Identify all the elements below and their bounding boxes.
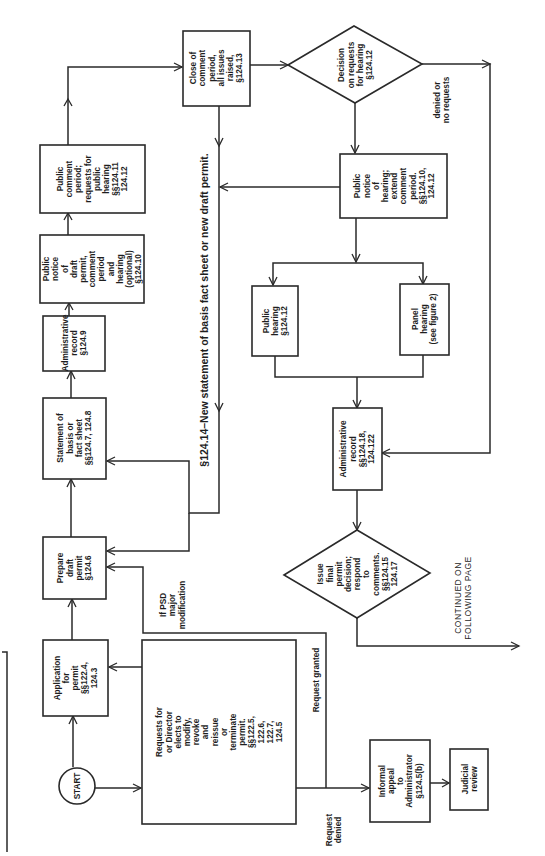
text-line: for hearing (356, 44, 365, 87)
text-line: 124.5 (275, 721, 284, 742)
text-line: §124.5(b) (415, 763, 424, 799)
text-line: 122.7, (266, 721, 275, 744)
node-close-comment[interactable]: Close ofcommentperiod,all issuesraised,§… (183, 31, 250, 106)
text-line: no requests (442, 76, 451, 123)
node-panel-hearing[interactable]: Panelhearing(see figure 2) (400, 284, 449, 355)
text-line: Application (53, 656, 62, 701)
text-line: to (362, 570, 371, 578)
node-admin-record-1[interactable]: Administrativerecord§124.9 (43, 314, 105, 371)
text-line: fact sheet (75, 419, 84, 457)
node-application[interactable]: Applicationforpermit§§122.4,124.3 (43, 640, 108, 716)
text-line: and (107, 262, 116, 277)
text-line: raised, (226, 55, 235, 81)
text-line: modification (178, 581, 187, 630)
text-line: respond (353, 558, 362, 590)
node-requests[interactable]: Requests foror Directorelects tomodify,r… (142, 640, 296, 824)
text-line: CONTINUED ON (453, 562, 463, 634)
text-line: elects to (174, 715, 183, 748)
text-line: §124.9 (79, 330, 88, 355)
text-line: hearing; (381, 170, 390, 202)
text-line: and (201, 725, 210, 740)
label-new-statement: §124.14–New statement of basis fact shee… (198, 153, 210, 466)
text-line: major (168, 593, 177, 616)
text-line: Issue (316, 563, 325, 584)
text-line: decision; (344, 556, 353, 592)
text-line: of (61, 265, 70, 273)
edge-comment-close (68, 67, 182, 145)
label-denied-no-requests: denied orno requests (433, 76, 452, 123)
node-public-hearing[interactable]: Publichearing§124.12 (252, 286, 298, 356)
text-line: to (396, 777, 405, 785)
label-psd-modification: If PSDmajormodification (159, 581, 187, 630)
text-line: Public (353, 173, 362, 198)
text-line: for (62, 672, 71, 684)
text-line: §§124.18, (358, 431, 367, 467)
text-line: Panel (411, 308, 420, 330)
text-line: period; (74, 165, 83, 193)
node-judicial-review[interactable]: Judicialreview (450, 749, 488, 810)
text-line: denied or (433, 81, 442, 119)
text-line: notice (51, 257, 60, 282)
text-line: (optional) (125, 250, 134, 288)
text-line: Request (325, 814, 334, 847)
text-line: denied (334, 817, 343, 843)
text-line: all issues (217, 49, 226, 86)
text-line: permit, (79, 255, 88, 282)
text-line: §§124.10, (418, 168, 427, 204)
node-public-notice-hearing[interactable]: Publicnoticeofhearing;extendcommentperio… (340, 154, 447, 218)
text-line: record (349, 436, 358, 461)
node-statement-basis[interactable]: Statement ofbasis orfact sheet§§124.7, 1… (43, 398, 106, 479)
text-line: §§122.4, (80, 662, 89, 694)
text-line: appeal (387, 768, 396, 794)
text-line: §§124.11 (111, 162, 120, 196)
text-line: draft (66, 559, 75, 577)
node-text: Close ofcommentperiod,all issuesraised,§… (189, 49, 244, 86)
text-line: final (326, 566, 335, 583)
text-line: 124.12 (120, 166, 129, 191)
permit-process-flowchart: START Applicationforpermit§§122.4,124.3 … (0, 0, 545, 856)
text-line: requests for (84, 155, 93, 203)
text-line: Public (56, 166, 65, 191)
text-line: Public (42, 256, 51, 281)
node-start[interactable]: START (59, 768, 95, 804)
text-line: revoke (192, 718, 201, 745)
text-line: §124.10 (134, 254, 143, 284)
text-line: period, (208, 54, 217, 81)
page-margin-bracket (2, 652, 7, 852)
text-line: Public (262, 308, 271, 333)
text-line: Statement of (56, 413, 65, 463)
label-request-granted: Request granted (312, 648, 321, 713)
text-line: permit (71, 665, 80, 690)
text-line: period. (409, 172, 418, 199)
node-public-comment[interactable]: Publiccommentperiod;requests forpubliche… (40, 145, 145, 213)
edge-new-statement-prepare (107, 513, 189, 551)
node-text: Preparedraftpermit§124.6 (56, 552, 93, 583)
node-decision[interactable]: Decisionon requestsfor hearing§124.12 (288, 26, 422, 103)
text-line: Decision (337, 48, 346, 82)
text-line: hearing (420, 304, 429, 334)
text-line: §124.14–New statement of basis fact shee… (198, 153, 210, 466)
text-line: Close of (189, 52, 198, 85)
node-text: Publichearing§124.12 (262, 306, 289, 336)
text-line: §§122.5, (247, 716, 256, 748)
edge-hearings-merge (275, 355, 423, 377)
text-line: comment (65, 161, 74, 198)
text-line: Administrator (405, 753, 414, 807)
text-line: public (93, 167, 102, 192)
text-line: extend (390, 173, 399, 199)
node-admin-record-2[interactable]: Administrativerecord§§124.18,124.122 (333, 408, 382, 490)
text-line: permit (75, 555, 84, 580)
text-line: §124.6 (84, 555, 93, 580)
text-line: FOLLOWING PAGE (463, 556, 473, 639)
text-line: 122.6, (257, 721, 266, 744)
node-informal-appeal[interactable]: InformalappealtoAdministrator§124.5(b) (370, 740, 430, 822)
node-final-decision[interactable]: Issuefinalpermitdecision;respondtocommen… (284, 530, 430, 618)
node-prepare-draft[interactable]: Preparedraftpermit§124.6 (43, 537, 106, 599)
text-line: notice (363, 174, 372, 199)
text-line: comment (399, 168, 408, 205)
text-line: §124.12 (280, 306, 289, 336)
node-text: Judicialreview (461, 764, 479, 795)
text-line: hearing (102, 164, 111, 194)
text-line: of (372, 182, 381, 190)
node-public-notice-draft[interactable]: Publicnoticeofdraftpermit,commentperioda… (40, 235, 144, 303)
